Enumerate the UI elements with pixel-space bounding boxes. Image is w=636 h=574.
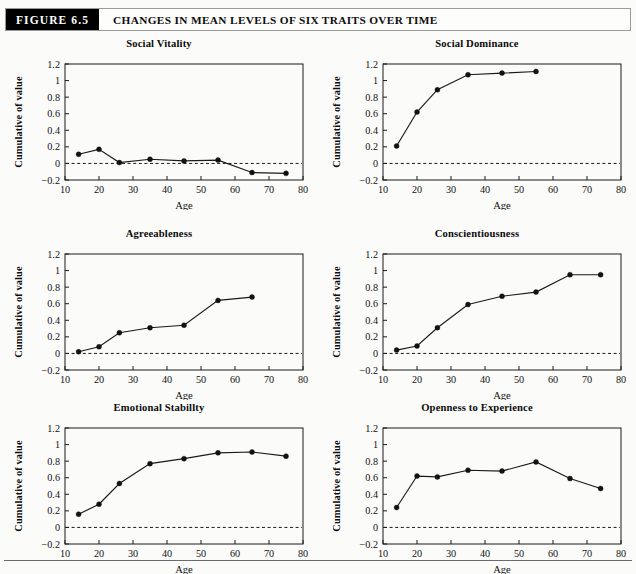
x-tick-label: 30 <box>446 548 456 559</box>
data-point <box>534 290 539 295</box>
x-tick-label: 30 <box>128 184 138 195</box>
figure-header: FIGURE 6.5 CHANGES IN MEAN LEVELS OF SIX… <box>5 8 631 31</box>
data-point <box>76 512 81 517</box>
plot-frame <box>65 254 303 370</box>
data-point <box>117 160 122 165</box>
y-tick-label: 1 <box>373 265 378 276</box>
chart-panel-openness-to-experience: Openness to Experience −0.200.20.40.60.8… <box>318 400 636 574</box>
x-tick-label: 10 <box>378 374 388 385</box>
x-tick-label: 80 <box>298 184 308 195</box>
x-tick-label: 30 <box>446 374 456 385</box>
data-point <box>415 343 420 348</box>
data-point <box>394 144 399 149</box>
x-tick-label: 20 <box>94 184 104 195</box>
data-line <box>79 297 252 352</box>
y-tick-label: 0.4 <box>47 315 60 326</box>
data-point <box>466 302 471 307</box>
x-tick-label: 40 <box>480 548 490 559</box>
x-tick-label: 80 <box>298 548 308 559</box>
x-tick-label: 30 <box>128 548 138 559</box>
x-tick-label: 20 <box>94 548 104 559</box>
x-tick-label: 20 <box>412 374 422 385</box>
data-point <box>435 87 440 92</box>
y-tick-label: 1 <box>373 75 378 86</box>
chart-plot-area: −0.200.20.40.60.811.21020304050607080Age… <box>0 36 318 210</box>
chart-panel-social-vitality: Social Vitality −0.200.20.40.60.811.2102… <box>0 36 318 210</box>
x-tick-label: 60 <box>548 548 558 559</box>
y-tick-label: −0.2 <box>42 539 60 550</box>
y-tick-label: 0.8 <box>47 282 60 293</box>
x-tick-label: 10 <box>60 184 70 195</box>
y-tick-label: 1 <box>55 439 60 450</box>
y-tick-label: 1.2 <box>47 59 60 70</box>
y-tick-label: 1.2 <box>47 249 60 260</box>
x-tick-label: 80 <box>298 374 308 385</box>
figure-number-tag: FIGURE 6.5 <box>6 9 99 30</box>
data-point <box>97 147 102 152</box>
x-tick-label: 50 <box>514 548 524 559</box>
data-point <box>415 474 420 479</box>
chart-plot-area: −0.200.20.40.60.811.21020304050607080Age… <box>318 36 636 210</box>
data-point <box>598 272 603 277</box>
data-point <box>534 69 539 74</box>
chart-panel-conscientiousness: Conscientiousness −0.200.20.40.60.811.21… <box>318 226 636 400</box>
data-point <box>466 72 471 77</box>
y-tick-label: 1.2 <box>47 423 60 434</box>
chart-plot-area: −0.200.20.40.60.811.21020304050607080Age… <box>318 400 636 574</box>
y-tick-label: 0.4 <box>47 489 60 500</box>
x-tick-label: 30 <box>128 374 138 385</box>
x-axis-label: Age <box>493 390 511 400</box>
y-tick-label: 1 <box>55 265 60 276</box>
y-tick-label: 0.2 <box>365 331 378 342</box>
y-axis-label: Cumulative of value <box>13 76 24 168</box>
data-point <box>148 325 153 330</box>
x-tick-label: 70 <box>264 548 274 559</box>
y-tick-label: 0.8 <box>47 456 60 467</box>
data-line <box>397 275 601 350</box>
y-tick-label: 0.4 <box>365 315 378 326</box>
data-line <box>397 71 536 146</box>
data-point <box>182 456 187 461</box>
y-tick-label: 1 <box>55 75 60 86</box>
data-point <box>534 459 539 464</box>
data-point <box>284 171 289 176</box>
y-tick-label: 0.2 <box>47 331 60 342</box>
y-tick-label: −0.2 <box>360 539 378 550</box>
x-tick-label: 50 <box>514 374 524 385</box>
y-tick-label: 0 <box>55 158 60 169</box>
x-tick-label: 80 <box>616 374 626 385</box>
data-point <box>415 110 420 115</box>
y-tick-label: 0.6 <box>47 108 60 119</box>
x-tick-label: 50 <box>196 184 206 195</box>
x-tick-label: 20 <box>94 374 104 385</box>
data-point <box>394 505 399 510</box>
x-axis-label: Age <box>175 564 193 574</box>
x-tick-label: 10 <box>378 184 388 195</box>
chart-panel-agreeableness: Agreeableness −0.200.20.40.60.811.210203… <box>0 226 318 400</box>
y-tick-label: 0 <box>373 522 378 533</box>
y-tick-label: 0.6 <box>365 472 378 483</box>
x-tick-label: 40 <box>162 374 172 385</box>
x-tick-label: 20 <box>412 548 422 559</box>
y-tick-label: 0.6 <box>365 108 378 119</box>
x-tick-label: 40 <box>162 548 172 559</box>
y-tick-label: −0.2 <box>360 175 378 186</box>
plot-frame <box>383 428 621 544</box>
data-point <box>435 325 440 330</box>
x-tick-label: 50 <box>196 374 206 385</box>
x-tick-label: 70 <box>582 374 592 385</box>
data-point <box>76 152 81 157</box>
data-point <box>76 349 81 354</box>
data-point <box>182 323 187 328</box>
x-tick-label: 60 <box>230 374 240 385</box>
x-tick-label: 60 <box>548 184 558 195</box>
x-tick-label: 70 <box>582 548 592 559</box>
data-point <box>568 272 573 277</box>
x-tick-label: 20 <box>412 184 422 195</box>
x-tick-label: 10 <box>60 548 70 559</box>
x-tick-label: 10 <box>60 374 70 385</box>
data-point <box>148 461 153 466</box>
y-axis-label: Cumulative of value <box>13 440 24 532</box>
plot-frame <box>383 64 621 180</box>
y-tick-label: 0 <box>373 158 378 169</box>
